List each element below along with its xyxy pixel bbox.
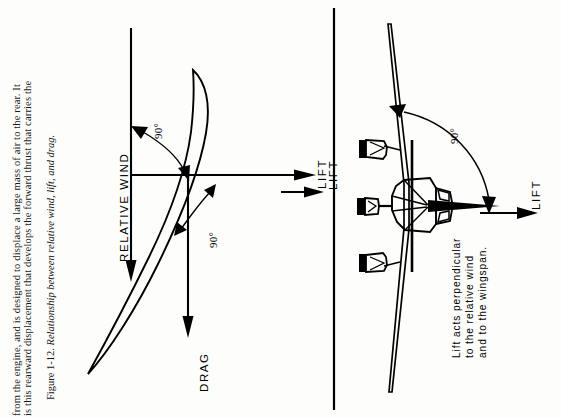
note-line-3: and to the wingspan. [478, 246, 489, 358]
scanned-book-page: from the engine, and is designed to disp… [0, 0, 561, 418]
engine-pod-lower-intake [359, 254, 366, 272]
engine-pod-upper-outline [366, 140, 387, 159]
angle-arc-right [404, 112, 489, 200]
label-angle-right-diagram: 90° [448, 128, 460, 144]
engine-pod-upper-detail [370, 142, 384, 155]
center-engine-detail [368, 201, 376, 212]
note-line-2: to the relative wind [465, 255, 476, 358]
note-line-1: Lift acts perpendicular [452, 238, 463, 358]
center-engine-outline [365, 198, 379, 215]
label-lift-right-diagram-left: LIFT [316, 159, 328, 189]
engine-pod-upper-intake [359, 140, 366, 158]
label-lift-right-diagram-right: LIFT [530, 180, 542, 210]
cockpit-window-lower [438, 211, 449, 222]
center-engine-intake [357, 198, 365, 215]
engine-pod-lower-detail [370, 257, 384, 270]
fuselage-facet-1 [404, 180, 428, 205]
